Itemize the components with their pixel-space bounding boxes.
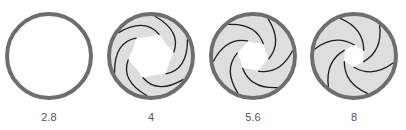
aperture-diagram: 2.8 4 5.6 8 [0, 0, 406, 130]
fstop-label-8: 8 [334, 110, 374, 124]
fstop-label-5-6: 5.6 [233, 110, 273, 124]
iris-2-8 [7, 14, 91, 98]
fstop-label-4: 4 [131, 110, 171, 124]
fstop-label-2-8: 2.8 [29, 110, 69, 124]
iris-8 [312, 14, 396, 98]
iris-opening [9, 16, 89, 96]
iris-4 [109, 14, 193, 98]
iris-5-6 [211, 14, 295, 98]
